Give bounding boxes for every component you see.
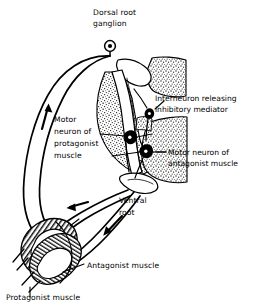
interneuron-label-line2: inhibitory mediator [155, 105, 229, 114]
motor-neuron-antagonist-label-line1: Motor neuron of [168, 148, 229, 157]
label-motor-neuron-protagonist: Motor neuron of protagonist muscle [54, 115, 98, 160]
antagonist-muscle-label: Antagonist muscle [87, 261, 159, 270]
ventral-root-label-line2: root [119, 208, 135, 217]
dorsal-root-ganglion-label-line1: Dorsal root [93, 8, 136, 17]
motor-neuron-protagonist-label-line4: muscle [54, 151, 82, 160]
label-dorsal-root-ganglion: Dorsal root ganglion [93, 8, 136, 28]
label-protagonist-muscle: Protagonist muscle [6, 293, 81, 302]
label-interneuron: Interneuron releasing inhibitory mediato… [155, 94, 237, 114]
efferent-arrow-antagonist [103, 216, 122, 236]
motor-neuron-antagonist-label-line2: antagonist muscle [168, 159, 238, 168]
motor-neuron-protagonist-label-line2: neuron of [54, 127, 92, 136]
reflex-arc-figure: Dorsal root ganglion Interneuron releasi… [0, 0, 261, 306]
protagonist-muscle-label: Protagonist muscle [6, 293, 81, 302]
reflex-arc-diagram: Dorsal root ganglion Interneuron releasi… [0, 0, 261, 306]
motor-neuron-protagonist-label-line1: Motor [54, 115, 77, 124]
label-antagonist-muscle: Antagonist muscle [87, 261, 159, 270]
interneuron-label-line1: Interneuron releasing [155, 94, 237, 103]
dorsal-root-ganglion [105, 41, 116, 56]
ventral-root-label-line1: Ventral [119, 196, 147, 205]
dorsal-root-ganglion-label-line2: ganglion [93, 19, 127, 28]
motor-neuron-protagonist-label-line3: protagonist [54, 139, 98, 148]
